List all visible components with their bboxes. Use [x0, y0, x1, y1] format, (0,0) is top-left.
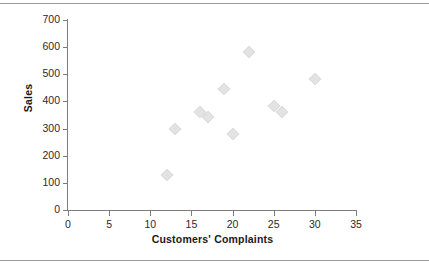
top-divider-rule — [0, 3, 429, 4]
y-axis-tick-label: 100 — [30, 176, 60, 188]
y-axis-tick-label: 600 — [30, 40, 60, 52]
x-axis-tick — [356, 211, 357, 216]
x-axis-tick — [191, 211, 192, 216]
x-axis-tick — [150, 211, 151, 216]
y-axis-tick-label: 300 — [30, 122, 60, 134]
x-axis-tick-label: 35 — [344, 218, 368, 230]
y-axis-tick-label: 700 — [30, 13, 60, 25]
x-axis-title: Customers' Complaints — [68, 233, 357, 245]
x-axis-tick — [109, 211, 110, 216]
bottom-divider-rule — [0, 260, 429, 261]
x-axis-tick-label: 30 — [303, 218, 327, 230]
y-axis-tick-label: 500 — [30, 67, 60, 79]
scatter-chart-figure: Sales Customers' Complaints 010020030040… — [0, 0, 429, 267]
x-axis-tick — [233, 211, 234, 216]
x-axis-tick-label: 10 — [138, 218, 162, 230]
x-axis-tick-label: 15 — [179, 218, 203, 230]
x-axis-tick-label: 20 — [221, 218, 245, 230]
x-axis-tick-label: 0 — [56, 218, 80, 230]
x-axis-tick — [68, 211, 69, 216]
y-axis-tick-label: 0 — [30, 203, 60, 215]
x-axis-tick — [274, 211, 275, 216]
x-axis-tick — [315, 211, 316, 216]
x-axis-tick-label: 25 — [262, 218, 286, 230]
x-axis-tick-label: 5 — [97, 218, 121, 230]
y-axis-tick-label: 200 — [30, 149, 60, 161]
y-axis-tick-label: 400 — [30, 94, 60, 106]
x-axis-line — [67, 210, 357, 211]
